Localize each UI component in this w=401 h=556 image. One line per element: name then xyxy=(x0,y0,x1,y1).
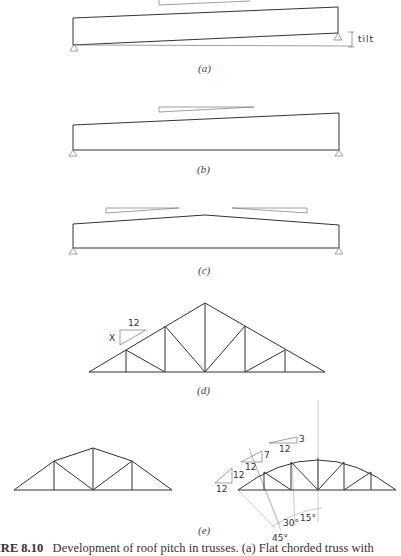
slope-triangle-icon xyxy=(215,468,232,483)
slope-rise-label: 7 xyxy=(264,450,270,460)
panel-b-drawing xyxy=(69,107,343,156)
figure-number: IRE 8.10 xyxy=(0,541,43,555)
panel-label-d: (d) xyxy=(197,384,210,396)
angle-label-30: 30° xyxy=(283,518,299,528)
slope-arrow xyxy=(159,107,254,112)
panel-c-drawing xyxy=(69,208,343,254)
pitch-triangle-icon xyxy=(120,330,146,345)
panel-e-left-drawing xyxy=(14,448,172,490)
support-icon xyxy=(334,33,342,40)
panel-d-drawing xyxy=(89,303,325,372)
slope-triangle-icon xyxy=(269,437,297,443)
support-icon xyxy=(69,248,77,254)
panel-label-b: (b) xyxy=(197,163,210,175)
slope-triangle-icon xyxy=(241,451,262,462)
slope-rise-label: 12 xyxy=(233,470,244,480)
panel-a-drawing xyxy=(70,0,354,51)
support-icon xyxy=(335,248,343,254)
figure-caption: IRE 8.10 Development of roof pitch in tr… xyxy=(0,541,401,556)
panel-label-c: (c) xyxy=(198,264,210,276)
slope-arrow xyxy=(232,208,307,213)
pitch-run-label: 12 xyxy=(128,318,139,328)
slope-run-label: 12 xyxy=(216,484,227,494)
slope-arrow xyxy=(159,0,250,5)
panel-label-a: (a) xyxy=(198,62,211,74)
angle-label-15: 15° xyxy=(300,513,316,523)
caption-text: Development of roof pitch in trusses. (a… xyxy=(53,541,374,555)
truss-diagram xyxy=(0,0,401,556)
pitch-rise-label: X xyxy=(109,333,115,343)
support-icon xyxy=(69,150,77,156)
slope-rise-label: 3 xyxy=(299,434,305,444)
support-icon xyxy=(335,150,343,156)
slope-run-label: 12 xyxy=(279,444,290,454)
slope-arrow xyxy=(106,208,179,213)
panel-label-e: (e) xyxy=(198,524,210,536)
slope-run-label: 12 xyxy=(245,462,256,472)
tilt-label: tilt xyxy=(358,34,374,44)
panel-e-right-drawing xyxy=(215,400,396,531)
